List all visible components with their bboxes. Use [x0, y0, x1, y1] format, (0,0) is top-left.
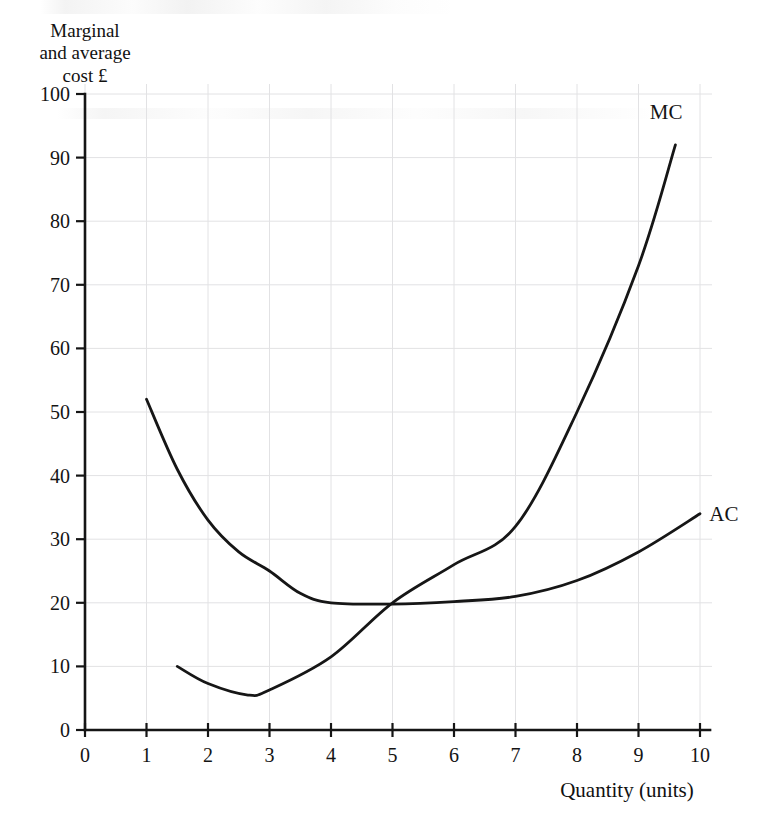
svg-text:60: 60: [50, 337, 70, 359]
vertical-gridlines: [85, 84, 700, 730]
y-axis-tick-labels: 0102030405060708090100: [40, 83, 70, 741]
svg-text:3: 3: [265, 744, 275, 766]
mc-curve-label: MC: [650, 100, 683, 124]
horizontal-gridlines: [85, 94, 712, 730]
svg-text:30: 30: [50, 528, 70, 550]
y-axis-ticks: [76, 94, 85, 730]
svg-text:40: 40: [50, 465, 70, 487]
x-axis-tick-labels: 012345678910: [80, 744, 710, 766]
svg-text:1: 1: [142, 744, 152, 766]
svg-text:50: 50: [50, 401, 70, 423]
svg-text:10: 10: [690, 744, 710, 766]
cost-curves-figure: Marginal and average cost £ 010203040506…: [0, 0, 761, 819]
svg-text:6: 6: [449, 744, 459, 766]
svg-text:10: 10: [50, 655, 70, 677]
plot-area: 0102030405060708090100 012345678910 MC A…: [0, 0, 761, 819]
svg-text:100: 100: [40, 83, 70, 105]
svg-text:20: 20: [50, 592, 70, 614]
svg-text:70: 70: [50, 274, 70, 296]
svg-text:5: 5: [388, 744, 398, 766]
svg-text:4: 4: [326, 744, 336, 766]
svg-text:80: 80: [50, 210, 70, 232]
average-cost-curve: [147, 399, 701, 604]
marginal-cost-curve: [177, 145, 675, 696]
x-axis-title: Quantity (units): [512, 778, 742, 803]
svg-text:2: 2: [203, 744, 213, 766]
svg-text:8: 8: [572, 744, 582, 766]
svg-text:0: 0: [60, 719, 70, 741]
ac-curve-label: AC: [709, 502, 738, 526]
svg-text:90: 90: [50, 147, 70, 169]
svg-text:0: 0: [80, 744, 90, 766]
svg-text:9: 9: [634, 744, 644, 766]
svg-text:7: 7: [511, 744, 521, 766]
